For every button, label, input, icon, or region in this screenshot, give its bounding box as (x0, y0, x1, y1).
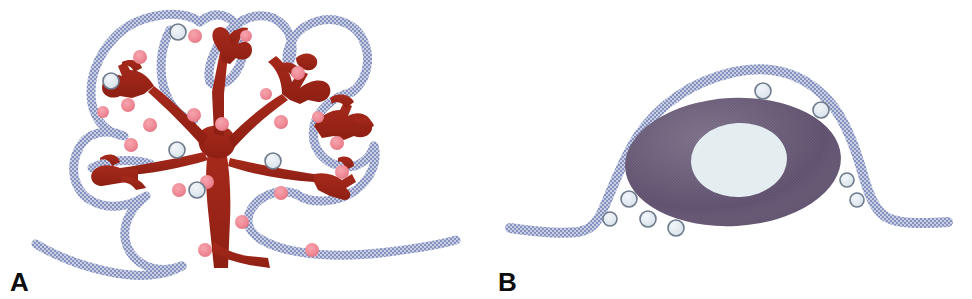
secretory-granule (291, 66, 305, 80)
secretory-granule (330, 136, 344, 150)
secretory-granule (240, 30, 252, 42)
secretory-granule (274, 186, 288, 200)
panel-a-label: A (10, 269, 29, 295)
clear-vesicle (813, 102, 829, 118)
clear-vesicle (668, 220, 684, 236)
clear-vesicle (170, 24, 186, 40)
secretory-granule (305, 243, 319, 257)
clear-vesicle (169, 142, 185, 158)
clear-vesicle (265, 153, 281, 169)
figure-root: A (0, 0, 972, 299)
secretory-granule (124, 138, 138, 152)
clear-vesicle (621, 191, 637, 207)
clear-vesicle (189, 182, 205, 198)
secretory-granule (97, 106, 109, 118)
clear-vesicle (603, 212, 617, 226)
secretory-granule (121, 98, 135, 112)
clear-vesicle (103, 73, 119, 89)
panel-b: B (486, 0, 972, 299)
panel-a: A (0, 0, 486, 299)
secretory-granule (143, 118, 157, 132)
secretory-granule (260, 88, 272, 100)
secretory-granule (187, 108, 201, 122)
secretory-granule (172, 183, 186, 197)
clear-vesicle (850, 193, 864, 207)
secretory-granule (215, 117, 229, 131)
panel-a-illustration (0, 0, 486, 299)
panel-b-label: B (498, 269, 517, 295)
secretory-granule (335, 165, 349, 179)
secretory-granule (235, 215, 249, 229)
secretory-granule (133, 50, 147, 64)
clear-vesicle (840, 173, 854, 187)
secretory-granule (274, 115, 288, 129)
secretory-granule (188, 29, 202, 43)
secretory-granule (312, 111, 324, 123)
panel-b-illustration (486, 0, 972, 299)
clear-vesicle (755, 83, 771, 99)
clear-vesicle (640, 211, 656, 227)
secretory-granule (198, 243, 212, 257)
